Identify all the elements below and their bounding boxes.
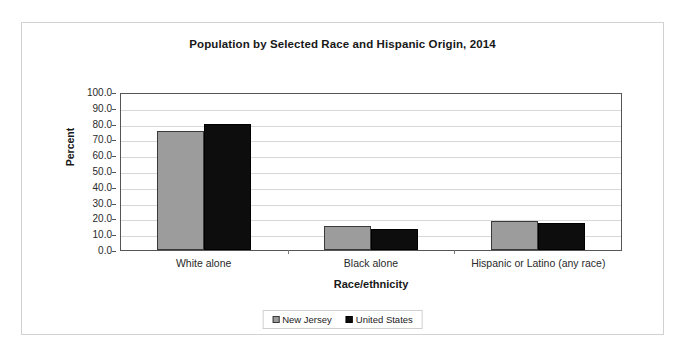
y-axis-tick-label: 50.0 bbox=[93, 167, 112, 177]
plot-area-wrapper bbox=[120, 93, 622, 251]
bar-group bbox=[121, 94, 288, 250]
y-axis-tick-label: 90.0 bbox=[93, 104, 112, 114]
bar-group bbox=[454, 94, 621, 250]
y-axis-tick-mark bbox=[112, 219, 116, 220]
y-axis-tick-label: 100.0 bbox=[87, 88, 112, 98]
bars-layer bbox=[121, 94, 621, 250]
x-axis-tick-mark bbox=[454, 250, 455, 254]
bar[interactable] bbox=[371, 229, 418, 250]
bar[interactable] bbox=[157, 131, 204, 250]
y-axis-tick-mark bbox=[112, 93, 116, 94]
bar[interactable] bbox=[538, 223, 585, 250]
legend-item-label: New Jersey bbox=[282, 314, 332, 325]
y-axis-tick-mark bbox=[112, 140, 116, 141]
y-axis-tick-label: 80.0 bbox=[93, 120, 112, 130]
plot-area bbox=[120, 93, 622, 251]
x-axis-category-label: Black alone bbox=[287, 257, 454, 269]
bar-group bbox=[288, 94, 455, 250]
y-axis-tick-label: 40.0 bbox=[93, 183, 112, 193]
y-axis-tick-label: 30.0 bbox=[93, 199, 112, 209]
y-axis-tick-label: 20.0 bbox=[93, 214, 112, 224]
x-axis-category-labels: White aloneBlack aloneHispanic or Latino… bbox=[120, 257, 622, 269]
y-axis-tick-mark bbox=[112, 156, 116, 157]
bar[interactable] bbox=[491, 221, 538, 250]
legend-item[interactable]: United States bbox=[346, 314, 413, 325]
y-axis-tick-mark bbox=[112, 188, 116, 189]
y-axis-tick-labels: 100.090.080.070.060.050.040.030.020.010.… bbox=[74, 93, 116, 251]
x-axis-title: Race/ethnicity bbox=[120, 278, 622, 290]
y-axis-tick-label: 10.0 bbox=[93, 230, 112, 240]
x-axis-category-label: Hispanic or Latino (any race) bbox=[455, 257, 622, 269]
legend-item-label: United States bbox=[356, 314, 413, 325]
bar[interactable] bbox=[324, 226, 371, 250]
legend-item[interactable]: New Jersey bbox=[272, 314, 332, 325]
y-axis-tick-label: 70.0 bbox=[93, 135, 112, 145]
y-axis-tick-mark bbox=[112, 251, 116, 252]
bar[interactable] bbox=[204, 124, 251, 250]
legend-swatch-icon bbox=[346, 316, 353, 323]
y-axis-tick-mark bbox=[112, 172, 116, 173]
legend-swatch-icon bbox=[272, 316, 279, 323]
chart-legend: New JerseyUnited States bbox=[262, 310, 423, 329]
y-axis-tick-mark bbox=[112, 125, 116, 126]
y-axis-tick-mark bbox=[112, 204, 116, 205]
x-axis-tick-mark bbox=[288, 250, 289, 254]
chart-figure-frame: Population by Selected Race and Hispanic… bbox=[21, 22, 664, 335]
y-axis-tick-label: 0.0 bbox=[98, 246, 112, 256]
y-axis-tick-mark bbox=[112, 109, 116, 110]
y-axis-tick-mark bbox=[112, 235, 116, 236]
chart-title: Population by Selected Race and Hispanic… bbox=[22, 38, 663, 50]
x-axis-category-label: White alone bbox=[120, 257, 287, 269]
y-axis-tick-label: 60.0 bbox=[93, 151, 112, 161]
